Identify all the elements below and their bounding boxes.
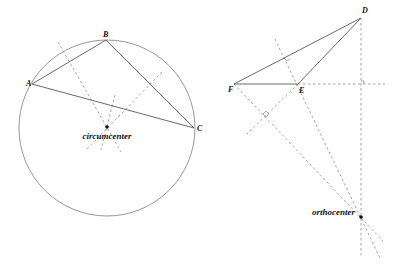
vertex-label-d: D bbox=[361, 6, 368, 15]
orthocenter-figure: D E F orthocenter bbox=[227, 6, 385, 260]
circumcenter-figure: A B C circumcenter bbox=[19, 30, 203, 216]
triangle-def bbox=[234, 18, 361, 84]
vertex-label-c: C bbox=[197, 124, 203, 133]
vertex-label-f: F bbox=[227, 85, 234, 94]
orthocenter-label: orthocenter bbox=[312, 207, 355, 217]
circumcenter-point bbox=[105, 125, 109, 129]
geometry-diagram: A B C circumcenter D E F orthocenter bbox=[0, 0, 400, 270]
triangle-abc bbox=[32, 40, 194, 128]
vertex-label-b: B bbox=[102, 30, 109, 39]
altitude-from-e bbox=[275, 39, 381, 260]
vertex-label-e: E bbox=[298, 86, 304, 95]
extension-de bbox=[247, 84, 298, 134]
right-angle-marker-e bbox=[284, 58, 290, 61]
circumcenter-label: circumcenter bbox=[83, 131, 132, 141]
right-angle-marker-f bbox=[263, 111, 269, 117]
orthocenter-point bbox=[359, 215, 363, 219]
vertex-label-a: A bbox=[25, 79, 32, 88]
